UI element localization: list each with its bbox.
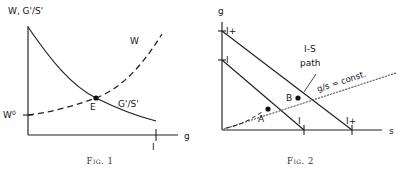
- figure-2-y-tick-label-i: I: [226, 55, 229, 65]
- figure-2-plot: g I+ I I I+ s A B I-S path g/s = const.: [200, 0, 401, 150]
- figure-2-x-tick-label-i: I: [298, 116, 301, 126]
- figure-1-point-e-label: E: [90, 102, 96, 112]
- figure-2-y-axis-label: g: [218, 6, 224, 16]
- figure-1-curve-label-gs: G'/S': [118, 99, 139, 109]
- figure-1-caption: Fig. 1: [0, 156, 200, 166]
- gs-const-ray: [224, 73, 396, 129]
- figure-2-panel: g I+ I I I+ s A B I-S path g/s = const. …: [200, 0, 401, 170]
- figure-1-curve-label-w: W: [130, 36, 139, 46]
- figure-1-plot: W, G'/S' W0 E G'/S' W I g: [0, 0, 200, 150]
- origin-arc: [226, 112, 262, 128]
- figure-2-caption: Fig. 2: [200, 156, 401, 166]
- is-path-leader-line: [304, 74, 316, 92]
- point-b-marker: [295, 95, 300, 100]
- point-e-marker: [93, 95, 98, 100]
- figures-container: W, G'/S' W0 E G'/S' W I g Fig. 1: [0, 0, 401, 170]
- figure-2-y-tick-label-i-plus: I+: [226, 26, 236, 36]
- figure-2-point-b-label: B: [286, 93, 292, 103]
- figure-1-x-axis-label: g: [184, 131, 190, 141]
- figure-2-point-a-label: A: [258, 114, 265, 124]
- figure-2-gs-const-label: g/s = const.: [316, 69, 368, 94]
- figure-2-is-path-label-line2: path: [300, 58, 320, 68]
- figure-2-is-path-label-line1: I-S: [304, 44, 316, 54]
- figure-1-w0-label: W0: [3, 109, 16, 120]
- figure-2-x-axis-label: s: [389, 126, 394, 136]
- figure-1-panel: W, G'/S' W0 E G'/S' W I g Fig. 1: [0, 0, 200, 170]
- figure-1-x-tick-label-i: I: [152, 142, 155, 150]
- figure-1-y-axis-label: W, G'/S': [8, 6, 43, 16]
- figure-2-x-tick-label-i-plus: I+: [346, 116, 356, 126]
- point-a-marker: [265, 106, 270, 111]
